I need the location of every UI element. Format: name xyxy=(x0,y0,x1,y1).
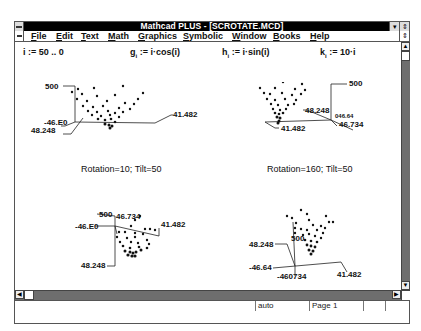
z-axis-label: 500 xyxy=(291,234,304,243)
axis-label-a: 46.734 xyxy=(116,212,140,221)
status-calc-mode: auto xyxy=(255,301,309,311)
arrow-right-icon: ▶ xyxy=(394,291,399,297)
menu-math-accel: M xyxy=(108,31,116,41)
menu-help-rest: elp xyxy=(317,31,330,41)
plot-caption: Rotation=160; Tilt=50 xyxy=(267,164,353,174)
surface-plot-1[interactable]: 500 -46.E0 48.248 41.482 Rotation=10; Ti… xyxy=(35,82,205,172)
vertical-scrollbar[interactable]: ▲ ▼ xyxy=(401,42,410,291)
scroll-left-button[interactable]: ◀ xyxy=(15,290,24,299)
menu-graphics[interactable]: Graphics xyxy=(138,31,177,41)
menu-books-rest: ooks xyxy=(280,31,301,41)
window-title: Mathcad PLUS - [SCROTATE.MCD] xyxy=(15,21,409,31)
menu-window[interactable]: Window xyxy=(232,31,266,41)
z-axis-label: 500 xyxy=(349,79,362,88)
y-axis-max-label: 41.482 xyxy=(173,110,197,119)
menu-math-rest: ath xyxy=(116,31,130,41)
horizontal-scrollbar[interactable]: ◀ ▶ xyxy=(15,290,401,300)
axis-label-c: -46.E0 xyxy=(75,222,99,231)
z-axis-label: 500 xyxy=(45,82,58,91)
scroll-up-button[interactable]: ▲ xyxy=(401,42,410,51)
restore-icon: ⇕ xyxy=(402,32,408,39)
arrow-down-icon: ▼ xyxy=(403,282,409,288)
axis-label-b: 41.482 xyxy=(161,220,185,229)
arrow-left-icon: ◀ xyxy=(17,291,22,297)
axis-label-c: 46.734 xyxy=(339,120,363,129)
document-system-menu-icon[interactable] xyxy=(15,31,24,41)
range-definition[interactable]: i := 50 .. 0 xyxy=(23,47,64,57)
title-bar[interactable]: Mathcad PLUS - [SCROTATE.MCD] ▾ ⇕ xyxy=(15,22,409,31)
restore-icon: ⇕ xyxy=(402,23,408,30)
axis-label-a: 48.248 xyxy=(249,240,273,249)
axis-label-b: 046.64 xyxy=(335,113,353,119)
surface-plot-2[interactable]: 500 48.248 046.64 46.734 41.482 Rotation… xyxy=(255,82,395,172)
status-bar: auto Page 1 xyxy=(15,300,409,311)
h-definition[interactable]: hi := i·sin(i) xyxy=(222,47,269,59)
chevron-down-icon: ▾ xyxy=(393,23,397,30)
menu-window-rest: indow xyxy=(240,31,266,41)
axis-label-c: -460734 xyxy=(277,272,306,281)
menu-text[interactable]: Text xyxy=(81,31,99,41)
axis-label-d: 48.248 xyxy=(81,261,105,270)
g-expr: := i·cos(i) xyxy=(137,47,180,57)
y-axis-min-label: 48.248 xyxy=(31,126,55,135)
status-cell-3 xyxy=(363,301,385,311)
restore-button[interactable]: ⇕ xyxy=(399,22,409,31)
scatter-plot-graphic xyxy=(255,82,395,152)
document-restore-button[interactable]: ⇕ xyxy=(399,31,409,41)
scroll-down-button[interactable]: ▼ xyxy=(401,281,410,290)
horizontal-scroll-thumb[interactable] xyxy=(24,290,34,300)
arrow-up-icon: ▲ xyxy=(403,43,409,49)
g-definition[interactable]: gi := i·cos(i) xyxy=(130,47,180,59)
status-cell-4 xyxy=(385,301,409,311)
axis-label-d: 41.482 xyxy=(337,270,361,279)
menu-help[interactable]: Help xyxy=(310,31,330,41)
status-page: Page 1 xyxy=(309,301,363,311)
mathcad-window: Mathcad PLUS - [SCROTATE.MCD] ▾ ⇕ File E… xyxy=(14,21,410,324)
menu-bar: File Edit Text Math Graphics Symbolic Wi… xyxy=(15,31,409,42)
scroll-right-button[interactable]: ▶ xyxy=(392,290,401,299)
menu-books[interactable]: Books xyxy=(273,31,301,41)
scroll-corner xyxy=(401,290,410,300)
menu-file[interactable]: File xyxy=(31,31,47,41)
vertical-scroll-thumb[interactable] xyxy=(401,51,410,61)
surface-plot-3[interactable]: 500 46.734 41.482 -46.E0 48.248 Rotation… xyxy=(35,212,205,290)
worksheet[interactable]: i := 50 .. 0 gi := i·cos(i) hi := i·sin(… xyxy=(15,42,401,290)
axis-label-d: 41.482 xyxy=(281,124,305,133)
scatter-plot-graphic xyxy=(251,208,401,288)
z-axis-label: 500 xyxy=(99,210,112,219)
menu-file-rest: ile xyxy=(37,31,47,41)
menu-edit[interactable]: Edit xyxy=(56,31,73,41)
plot-caption: Rotation=10; Tilt=50 xyxy=(81,164,162,174)
menu-math[interactable]: Math xyxy=(108,31,129,41)
surface-plot-4[interactable]: 48.248 500 -46.64 -460734 41.482 Rotatio… xyxy=(251,208,401,290)
menu-edit-rest: dit xyxy=(62,31,73,41)
menu-text-rest: ext xyxy=(86,31,99,41)
k-definition[interactable]: ki := 10·i xyxy=(320,47,355,59)
menu-symbolic-rest: ymbolic xyxy=(189,31,223,41)
k-expr: := 10·i xyxy=(327,47,356,57)
axis-label-b: -46.64 xyxy=(249,263,272,272)
menu-graphics-accel: G xyxy=(138,31,145,41)
menu-graphics-rest: raphics xyxy=(145,31,177,41)
h-expr: := i·sin(i) xyxy=(229,47,269,57)
axis-label-a: 48.248 xyxy=(305,106,329,115)
minimize-button[interactable]: ▾ xyxy=(389,22,399,31)
menu-symbolic[interactable]: Symbolic xyxy=(183,31,223,41)
